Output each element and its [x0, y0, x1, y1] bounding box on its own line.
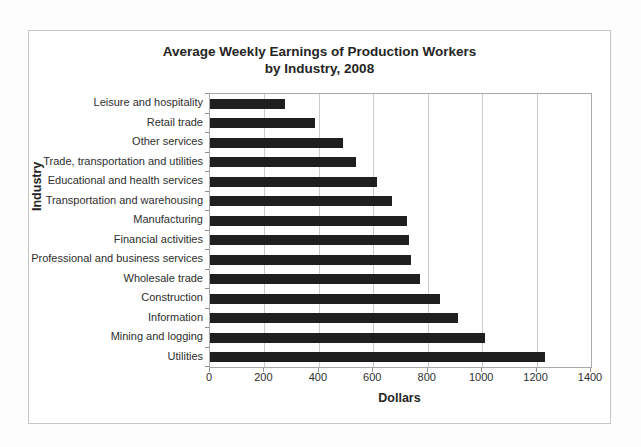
bar-leisure-and-hospitality — [210, 99, 285, 109]
y-tick-mark — [205, 288, 209, 289]
x-tick-mark-1200 — [536, 368, 537, 372]
gridline-400 — [319, 94, 320, 367]
chart-title: Average Weekly Earnings of Production Wo… — [29, 43, 610, 60]
category-label: Wholesale trade — [29, 269, 203, 289]
x-tick-mark-0 — [209, 368, 210, 372]
category-label: Professional and business services — [29, 249, 203, 269]
category-label: Financial activities — [29, 230, 203, 250]
x-tick-mark-1400 — [590, 368, 591, 372]
y-tick-mark — [205, 347, 209, 348]
x-tick-label-1200: 1200 — [523, 371, 547, 383]
x-tick-label-1000: 1000 — [469, 371, 493, 383]
bar-information — [210, 313, 458, 323]
bar-wholesale-trade — [210, 274, 420, 284]
x-axis-title: Dollars — [209, 391, 590, 405]
bar-other-services — [210, 138, 343, 148]
category-label: Educational and health services — [29, 171, 203, 191]
category-label: Leisure and hospitality — [29, 93, 203, 113]
category-label: Retail trade — [29, 113, 203, 133]
bar-retail-trade — [210, 118, 315, 128]
chart-canvas: Average Weekly Earnings of Production Wo… — [0, 0, 641, 447]
y-tick-mark — [205, 171, 209, 172]
gridline-1200 — [537, 94, 538, 367]
bar-transportation-and-warehousing — [210, 196, 392, 206]
chart-figure: Average Weekly Earnings of Production Wo… — [28, 30, 611, 424]
x-tick-label-200: 200 — [254, 371, 272, 383]
y-tick-mark — [205, 113, 209, 114]
category-label: Utilities — [29, 347, 203, 367]
gridline-200 — [264, 94, 265, 367]
x-tick-mark-1000 — [481, 368, 482, 372]
y-tick-mark — [205, 191, 209, 192]
y-axis-category-labels: Leisure and hospitalityRetail tradeOther… — [29, 93, 203, 366]
bar-financial-activities — [210, 235, 409, 245]
y-tick-mark — [205, 249, 209, 250]
y-tick-mark — [205, 152, 209, 153]
bar-trade-transportation-and-utilities — [210, 157, 356, 167]
x-tick-mark-600 — [372, 368, 373, 372]
y-tick-mark — [205, 210, 209, 211]
x-tick-mark-400 — [318, 368, 319, 372]
x-tick-label-600: 600 — [363, 371, 381, 383]
bar-mining-and-logging — [210, 333, 485, 343]
y-tick-mark — [205, 93, 209, 94]
x-tick-mark-800 — [427, 368, 428, 372]
bar-educational-and-health-services — [210, 177, 377, 187]
category-label: Information — [29, 308, 203, 328]
plot-area — [209, 93, 592, 368]
category-label: Trade, transportation and utilities — [29, 152, 203, 172]
gridline-600 — [373, 94, 374, 367]
gridline-1000 — [482, 94, 483, 367]
x-tick-label-0: 0 — [206, 371, 212, 383]
category-label: Manufacturing — [29, 210, 203, 230]
x-tick-label-1400: 1400 — [578, 371, 602, 383]
bar-professional-and-business-services — [210, 255, 411, 265]
y-tick-mark — [205, 327, 209, 328]
y-tick-mark — [205, 308, 209, 309]
category-label: Construction — [29, 288, 203, 308]
x-tick-label-400: 400 — [309, 371, 327, 383]
chart-subtitle: by Industry, 2008 — [29, 60, 610, 77]
y-tick-mark — [205, 230, 209, 231]
bar-utilities — [210, 352, 545, 362]
y-tick-mark — [205, 269, 209, 270]
category-label: Transportation and warehousing — [29, 191, 203, 211]
bar-construction — [210, 294, 440, 304]
y-tick-mark — [205, 366, 209, 367]
gridline-800 — [428, 94, 429, 367]
bar-manufacturing — [210, 216, 407, 226]
y-tick-mark — [205, 132, 209, 133]
x-tick-mark-200 — [263, 368, 264, 372]
chart-title-block: Average Weekly Earnings of Production Wo… — [29, 43, 610, 77]
x-tick-label-800: 800 — [418, 371, 436, 383]
category-label: Other services — [29, 132, 203, 152]
category-label: Mining and logging — [29, 327, 203, 347]
